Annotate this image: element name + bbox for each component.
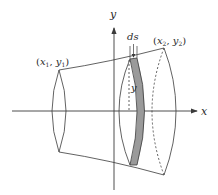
point-2-label: (x2, y2) (153, 35, 186, 47)
bottom-profile-curve (59, 152, 164, 175)
strip-section-ellipse (119, 59, 130, 165)
ds-label: ds (127, 31, 139, 42)
x-axis-label: x (201, 105, 208, 118)
y-axis-label: y (109, 8, 117, 21)
top-profile-curve (59, 48, 164, 70)
right-end-ellipse-front (164, 48, 176, 175)
radius-label: y (130, 82, 137, 93)
point-1-label: (x1, y1) (36, 56, 69, 68)
diagram-svg: y x ds y (x1, y1) (x2, y2) (0, 0, 218, 195)
right-end-ellipse-back (152, 48, 164, 175)
shaded-strip-ds (130, 58, 145, 165)
surface-of-revolution-diagram: y x ds y (x1, y1) (x2, y2) (0, 0, 218, 195)
